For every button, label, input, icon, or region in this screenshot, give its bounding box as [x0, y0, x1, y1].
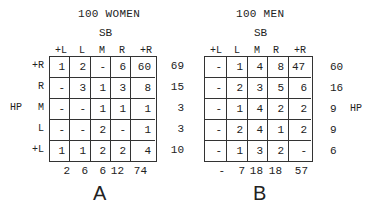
panel-a-row-total: 10 — [164, 144, 184, 156]
panel-b-cell: 2 — [268, 141, 289, 161]
panel-a-row-total: 3 — [164, 123, 184, 135]
panel-a-row-header: +R — [20, 60, 44, 71]
panel-b-title: 100 MEN — [236, 8, 284, 20]
panel-a-row-total: 69 — [164, 60, 184, 72]
panel-a-cell: - — [50, 120, 70, 141]
panel-b-cell: 2 — [227, 78, 248, 99]
panel-b-cell: 4 — [248, 57, 268, 78]
panel-b-cell: 2 — [227, 120, 248, 141]
panel-a-row-header: +L — [20, 144, 44, 155]
panel-a-row-header: M — [20, 102, 44, 113]
panel-a-cell: 1 — [131, 99, 155, 120]
panel-b-cell: 1 — [227, 141, 248, 161]
panel-a-col-total: 74 — [129, 165, 147, 177]
panel-b-cell: 1 — [227, 57, 248, 78]
panel-b-cell: 5 — [268, 78, 289, 99]
panel-a-cell: 2 — [91, 120, 111, 141]
panel-a-cell: 1 — [91, 99, 111, 120]
panel-a-cell: 3 — [111, 78, 131, 99]
panel-b-col-header: R — [266, 45, 286, 56]
panel-a-col-total: 6 — [78, 165, 88, 177]
panel-a-cell: 4 — [131, 141, 155, 161]
panel-a-cell: - — [70, 99, 91, 120]
panel-a-cell: - — [70, 120, 91, 141]
panel-b-cell: - — [205, 120, 227, 141]
panel-b-row-total: 60 — [330, 61, 348, 73]
panel-a-col-total: 12 — [106, 165, 124, 177]
panel-b-cell: 3 — [248, 141, 268, 161]
panel-b-cell: 4 — [248, 120, 268, 141]
panel-a-subtitle: SB — [99, 27, 112, 39]
panel-b-cell: 3 — [248, 78, 268, 99]
panel-a-cell: 60 — [131, 57, 155, 78]
panel-a-col-header: L — [72, 45, 92, 56]
panel-a-col-total: 2 — [60, 165, 70, 177]
panel-a-cell: 1 — [50, 57, 70, 78]
panel-b-col-total: - — [215, 165, 225, 177]
panel-a-col-header: M — [92, 45, 112, 56]
panel-b-col-total: 7 — [235, 165, 245, 177]
panel-b-row-total: 9 — [330, 103, 348, 115]
panel-a-row-total: 3 — [164, 102, 184, 114]
panel-b-row-total: 6 — [330, 145, 348, 157]
panel-a-col-header: +R — [136, 45, 156, 56]
panel-b-cell: 4 — [248, 99, 268, 120]
panel-a-side-label: HP — [10, 102, 22, 113]
panel-a-cell: 2 — [91, 141, 111, 161]
panel-a-label: A — [93, 182, 106, 205]
panel-b-cell: 1 — [227, 99, 248, 120]
panel-b-col-header: +R — [290, 45, 310, 56]
panel-a-cell: - — [91, 57, 111, 78]
panel-b-cell: 1 — [268, 120, 289, 141]
panel-b-col-total: 18 — [264, 165, 282, 177]
panel-a-row-total: 15 — [164, 81, 184, 93]
panel-a-title: 100 WOMEN — [78, 8, 140, 20]
panel-b-label: B — [253, 182, 266, 205]
panel-b-cell: 47 — [289, 57, 311, 78]
panel-b-row-total: 9 — [330, 124, 348, 136]
panel-b-cell: - — [289, 141, 311, 161]
panel-b-cell: 2 — [289, 120, 311, 141]
panel-a-grid: 1 2 - 6 60 - 3 1 3 8 - - 1 1 1 - - 2 - 1… — [49, 56, 157, 162]
panel-a-cell: 1 — [131, 120, 155, 141]
panel-b-col-header: +L — [206, 45, 226, 56]
panel-b-cell: 2 — [268, 99, 289, 120]
panel-a-cell: - — [111, 120, 131, 141]
panel-a-row-header: R — [20, 81, 44, 92]
panel-a-cell: 1 — [91, 78, 111, 99]
panel-b-col-header: L — [227, 45, 247, 56]
panel-a-cell: 3 — [70, 78, 91, 99]
panel-a-cell: 1 — [70, 141, 91, 161]
panel-a-cell: 6 — [111, 57, 131, 78]
panel-b-cell: - — [205, 141, 227, 161]
panel-a-cell: 8 — [131, 78, 155, 99]
panel-b-col-total: 57 — [290, 165, 308, 177]
panel-b-cell: 2 — [289, 99, 311, 120]
panel-a-col-total: 6 — [96, 165, 106, 177]
panel-a-cell: 2 — [111, 141, 131, 161]
panel-a-row-header: L — [20, 123, 44, 134]
panel-b-cell: - — [205, 78, 227, 99]
panel-a-col-header: R — [112, 45, 132, 56]
panel-b-side-label: HP — [350, 103, 362, 114]
panel-b-row-total: 16 — [330, 82, 348, 94]
panel-a-cell: - — [50, 78, 70, 99]
panel-b-cell: 6 — [289, 78, 311, 99]
panel-b-subtitle: SB — [254, 27, 267, 39]
panel-a-cell: 1 — [50, 141, 70, 161]
panel-a-cell: 2 — [70, 57, 91, 78]
panel-b-col-total: 18 — [245, 165, 263, 177]
panel-b-grid: - 1 4 8 47 - 2 3 5 6 - 1 4 2 2 - 2 4 1 2… — [204, 56, 313, 162]
panel-a-cell: 1 — [111, 99, 131, 120]
panel-b-cell: - — [205, 57, 227, 78]
panel-b-col-header: M — [247, 45, 267, 56]
panel-a-cell: - — [50, 99, 70, 120]
panel-b-cell: - — [205, 99, 227, 120]
panel-a-col-header: +L — [51, 45, 71, 56]
panel-b-cell: 8 — [268, 57, 289, 78]
